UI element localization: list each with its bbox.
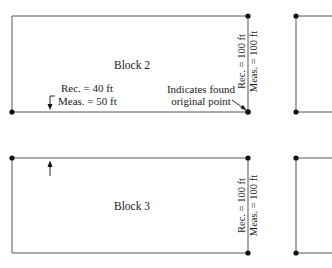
block-3-measured-depth: Meas. = 100 ft — [248, 171, 259, 241]
adjacent-block-top-outline — [296, 16, 332, 112]
block-3-title: Block 3 — [114, 200, 150, 212]
measurement-arrow-down-icon — [48, 96, 56, 110]
block-2-title: Block 2 — [114, 59, 150, 71]
corner-point-icon — [293, 250, 298, 255]
block-2-measured-depth: Meas. = 100 ft — [248, 27, 259, 97]
adjacent-block-bottom-outline — [296, 158, 332, 253]
block-2-recorded-depth: Rec. = 100 ft — [236, 27, 247, 97]
found-point-annotation-line1: Indicates found — [166, 83, 236, 95]
block-2-measured-width: Meas. = 50 ft — [58, 95, 117, 107]
corner-point-icon — [245, 250, 250, 255]
block-2-recorded-width: Rec. = 40 ft — [61, 82, 113, 94]
corner-point-icon — [293, 109, 298, 114]
corner-point-icon — [9, 155, 14, 160]
corner-point-icon — [245, 13, 250, 18]
corner-point-icon — [293, 13, 298, 18]
found-point-annotation-line2: original point — [166, 95, 236, 107]
corner-point-icon — [9, 109, 14, 114]
block-3-recorded-depth: Rec. = 100 ft — [236, 171, 247, 241]
measurement-arrow-up-icon — [48, 161, 53, 177]
survey-blocks-diagram: Block 2 Rec. = 40 ft Meas. = 50 ft Indic… — [0, 0, 332, 268]
corner-point-icon — [245, 155, 250, 160]
diagram-lines — [0, 0, 332, 268]
corner-point-icon — [293, 155, 298, 160]
